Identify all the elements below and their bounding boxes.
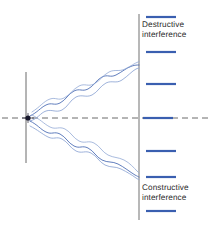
constructive-interference-label: Constructive interference [142, 183, 189, 202]
lower-wave-a [30, 121, 139, 177]
lower-wave-c [32, 115, 139, 173]
constructive-label-line1: Constructive [142, 183, 189, 193]
lower-wave-b [30, 126, 139, 180]
destructive-interference-label: Destructive interference [142, 20, 186, 39]
upper-wave-bundle [30, 62, 139, 121]
constructive-label-line2: interference [142, 193, 189, 203]
fringe-bars [143, 17, 176, 211]
destructive-label-line1: Destructive [142, 20, 186, 30]
upper-wave-b [30, 68, 139, 121]
lower-wave-bundle [30, 115, 139, 180]
destructive-label-line2: interference [142, 30, 186, 40]
interference-diagram: Destructive interference Constructive in… [0, 0, 211, 225]
upper-wave-a [30, 65, 139, 116]
